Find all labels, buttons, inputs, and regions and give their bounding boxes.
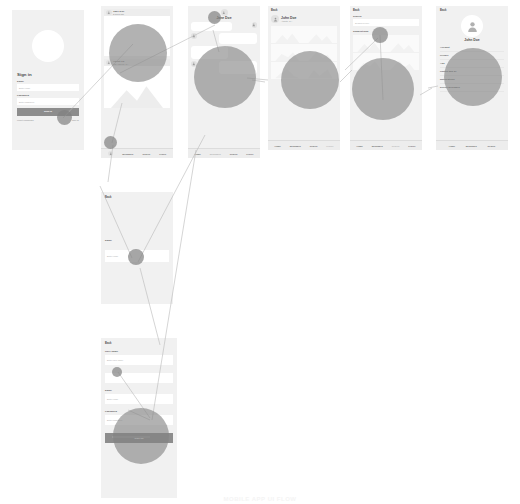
tab-search[interactable]: Search — [488, 145, 496, 147]
sign-up-link[interactable]: Sign up — [72, 119, 79, 121]
tab-messages[interactable]: Messages — [290, 145, 301, 147]
sender-avatar-icon — [191, 33, 197, 39]
user-avatar-icon — [106, 10, 112, 16]
annotation-blob — [444, 48, 502, 106]
annotation-blob — [109, 24, 167, 82]
screen-sign-in[interactable]: Sign in Email Enter email Password Enter… — [12, 10, 84, 150]
profile-avatar-icon[interactable] — [108, 151, 114, 157]
tab-messages[interactable]: Messages — [466, 145, 477, 147]
bottom-tab-bar[interactable]: Messages Search Profile — [101, 148, 173, 158]
annotation-blob — [104, 136, 117, 149]
tab-home[interactable]: Home — [274, 145, 280, 147]
sender-avatar-icon — [252, 22, 258, 28]
flow-diagram-canvas: Sign in Email Enter email Password Enter… — [0, 0, 520, 504]
email-field[interactable]: Enter email — [17, 84, 79, 91]
tab-home[interactable]: Home — [194, 153, 200, 155]
tab-search[interactable]: Search — [230, 153, 238, 155]
annotation-blob — [194, 46, 256, 108]
annotation-blob — [57, 110, 72, 125]
avatar — [32, 30, 64, 62]
search-input[interactable]: Search people — [353, 19, 419, 26]
annotation-blob — [112, 367, 122, 377]
chat-bubble-outgoing — [219, 33, 257, 44]
profile-location: Atlanta, GA — [281, 20, 296, 22]
forgot-password-link[interactable]: Forgot password? — [17, 119, 34, 121]
tab-messages[interactable]: Messages — [122, 153, 133, 155]
tab-home[interactable]: Home — [449, 145, 455, 147]
tab-search[interactable]: Search — [392, 145, 400, 147]
screen-edit-field[interactable]: Back Email Enter email — [101, 192, 173, 304]
bottom-tab-bar[interactable]: Home Messages Search Profile — [350, 140, 422, 150]
tab-search[interactable]: Search — [310, 145, 318, 147]
tab-profile[interactable]: Profile — [246, 153, 253, 155]
watermark: MOBILE APP UI FLOW — [0, 496, 520, 502]
photo-cell[interactable] — [271, 26, 304, 43]
tab-profile[interactable]: Profile — [326, 145, 333, 147]
annotation-blob — [352, 58, 414, 120]
back-button[interactable]: Back — [440, 9, 504, 12]
settings-avatar — [461, 15, 483, 37]
annotation-blob — [128, 249, 144, 265]
bottom-tab-bar[interactable]: Home Messages Search Profile — [188, 148, 260, 158]
annotation-blob — [208, 11, 221, 24]
chat-avatar-icon — [221, 9, 228, 16]
suggestion-cell[interactable] — [386, 35, 419, 52]
bottom-tab-bar[interactable]: Home Messages Search Profile — [268, 140, 340, 150]
feed-card-meta: 2 hours ago — [113, 13, 124, 15]
annotation-blob — [113, 408, 169, 464]
tab-profile[interactable]: Profile — [408, 145, 415, 147]
username-field[interactable]: Enter user name — [105, 355, 173, 365]
email-field[interactable]: Enter email — [105, 394, 173, 404]
feed-card-header: Jane Doe 2 hours ago — [104, 9, 170, 16]
profile-avatar-icon — [271, 15, 279, 23]
tab-messages[interactable]: Messages — [210, 153, 221, 155]
bottom-tab-bar[interactable]: Home Messages Search — [436, 140, 508, 150]
annotation-blob — [372, 27, 388, 43]
tab-search[interactable]: Search — [142, 153, 150, 155]
password-field[interactable]: Enter password — [17, 98, 79, 105]
tab-home[interactable]: Home — [356, 145, 362, 147]
annotation-blob — [281, 51, 339, 109]
tab-profile[interactable]: Profile — [159, 153, 166, 155]
tab-messages[interactable]: Messages — [372, 145, 383, 147]
photo-cell[interactable] — [304, 26, 337, 43]
